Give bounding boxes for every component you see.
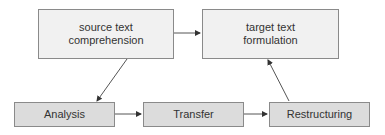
node-label: Transfer — [173, 108, 214, 121]
edge-restructuring-to-target — [268, 60, 289, 101]
node-label-line2: comprehension — [68, 34, 143, 47]
node-label: Restructuring — [287, 108, 352, 121]
node-label-line2: formulation — [243, 34, 297, 47]
node-restructuring: Restructuring — [269, 102, 370, 127]
edge-source-to-analysis — [97, 59, 127, 101]
node-label: Analysis — [44, 108, 85, 121]
node-analysis: Analysis — [14, 102, 115, 127]
node-target-text-formulation: target text formulation — [202, 9, 339, 59]
node-transfer: Transfer — [143, 102, 244, 127]
node-label-line1: source text — [68, 21, 143, 34]
node-source-text-comprehension: source text comprehension — [38, 9, 174, 59]
node-label-line1: target text — [243, 21, 297, 34]
